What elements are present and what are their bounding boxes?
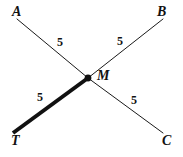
point-label-A: A [12, 5, 21, 19]
point-label-M: M [97, 69, 109, 83]
length-label-A-M: 5 [57, 36, 63, 48]
segment-A-M [17, 19, 88, 78]
geometry-figure: A B M T C 5 5 5 5 [0, 0, 183, 157]
vertex-marker-M [85, 75, 92, 82]
segment-M-C [88, 78, 163, 133]
length-label-B-M: 5 [117, 35, 123, 47]
segment-M-T-bold [13, 78, 88, 133]
point-label-C: C [162, 134, 171, 148]
length-label-M-T: 5 [37, 91, 43, 103]
length-label-M-C: 5 [131, 94, 137, 106]
point-label-T: T [11, 134, 20, 148]
geometry-canvas [0, 0, 183, 157]
point-label-B: B [157, 5, 166, 19]
